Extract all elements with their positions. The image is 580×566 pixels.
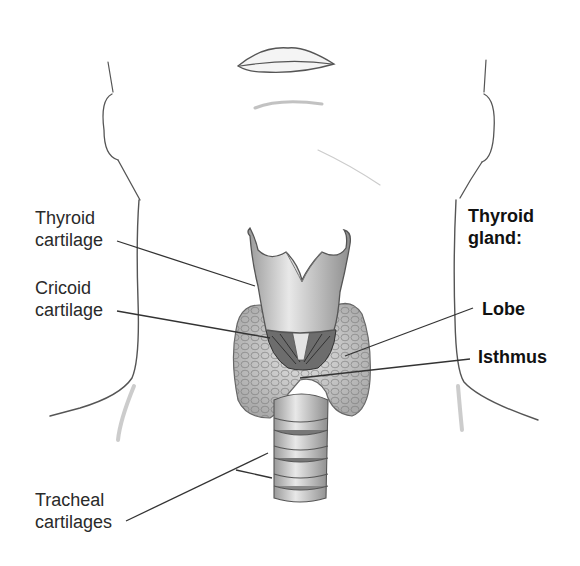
label-line: Thyroid bbox=[468, 205, 534, 227]
label-line: Tracheal bbox=[35, 489, 112, 511]
label-line: cartilage bbox=[35, 229, 103, 251]
thyroid-cartilage-art bbox=[248, 228, 350, 333]
label-cricoid-cartilage: Cricoid cartilage bbox=[35, 277, 103, 321]
label-thyroid-gland-heading: Thyroid gland: bbox=[468, 205, 534, 249]
label-tracheal-cartilages: Tracheal cartilages bbox=[35, 489, 112, 533]
label-line: Cricoid bbox=[35, 277, 103, 299]
leader-tracheal-cartilages bbox=[126, 453, 268, 521]
label-lobe: Lobe bbox=[482, 298, 525, 320]
label-line: cartilage bbox=[35, 299, 103, 321]
label-isthmus: Isthmus bbox=[478, 346, 547, 368]
face-sketch bbox=[103, 48, 494, 200]
label-line: gland: bbox=[468, 227, 534, 249]
label-line: Thyroid bbox=[35, 207, 103, 229]
label-thyroid-cartilage: Thyroid cartilage bbox=[35, 207, 103, 251]
label-line: cartilages bbox=[35, 511, 112, 533]
trachea-art bbox=[274, 394, 328, 502]
thyroid-diagram: Thyroid cartilage Cricoid cartilage Trac… bbox=[0, 0, 580, 566]
